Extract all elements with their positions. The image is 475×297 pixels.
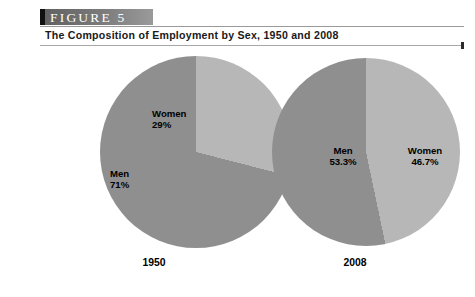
subtitle-rule-end-tick — [461, 42, 464, 49]
figure-page: FIGURE 5 The Composition of Employment b… — [0, 0, 475, 297]
subtitle-rule-top — [40, 26, 464, 27]
pie-1950-men-value: 71% — [110, 179, 180, 190]
pie-2008-men-name: Men — [312, 145, 374, 156]
pie-1950-women-label: Women 29% — [152, 108, 222, 130]
pie-1950-men-label: Men 71% — [110, 168, 180, 190]
pie-2008-women-name: Women — [389, 145, 461, 156]
pie-1950-women-value: 29% — [152, 119, 222, 130]
pie-chart-1950 — [100, 56, 292, 248]
pie-1950-women-name: Women — [152, 108, 222, 119]
subtitle-rule — [40, 45, 462, 46]
figure-header-accent — [40, 9, 45, 25]
figure-number-label: FIGURE 5 — [50, 10, 126, 25]
pie-2008-women-value: 46.7% — [389, 156, 461, 167]
pie-1950-men-name: Men — [110, 168, 180, 179]
pie-2008-women-label: Women 46.7% — [389, 145, 461, 167]
pie-2008-men-value: 53.3% — [312, 156, 374, 167]
pie-1950-year-label: 1950 — [114, 257, 194, 269]
pie-2008-men-label: Men 53.3% — [312, 145, 374, 167]
pie-2008-year-label: 2008 — [315, 257, 395, 269]
figure-subtitle: The Composition of Employment by Sex, 19… — [45, 28, 339, 43]
